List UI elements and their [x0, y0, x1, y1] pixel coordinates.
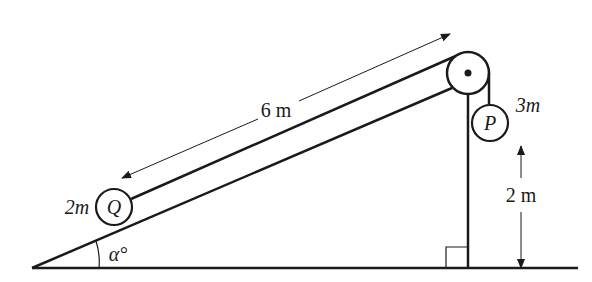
pulley-incline-diagram: Q 2m P 3m 6 m 2 m α° [0, 0, 592, 282]
string-q-to-pulley [131, 55, 458, 199]
right-angle-marker [446, 247, 468, 268]
incline-surface [32, 88, 452, 268]
particle-q-mass: 2m [65, 196, 89, 218]
particle-p-label: P [483, 112, 496, 134]
slope-length-label: 6 m [261, 99, 292, 121]
angle-arc [96, 241, 99, 268]
pulley-axle [465, 70, 472, 77]
slope-length-arrow-lower [122, 119, 258, 178]
particle-p-mass: 3m [515, 94, 540, 116]
height-label: 2 m [506, 184, 537, 206]
angle-label: α° [109, 243, 128, 265]
particle-q-label: Q [107, 196, 122, 218]
